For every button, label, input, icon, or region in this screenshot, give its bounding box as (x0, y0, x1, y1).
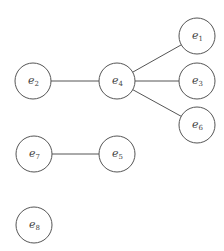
node-e3: e3 (179, 63, 215, 99)
node-e1: e1 (179, 18, 215, 54)
node-e5: e5 (99, 136, 135, 172)
nodes-layer: e1e2e3e4e5e6e7e8 (15, 18, 215, 243)
graph-diagram: e1e2e3e4e5e6e7e8 (0, 0, 224, 251)
node-e4: e4 (99, 63, 135, 99)
node-e8: e8 (16, 207, 52, 243)
node-e2: e2 (15, 63, 51, 99)
edge-e4-e1 (133, 45, 182, 72)
node-e6: e6 (179, 107, 215, 143)
edge-e4-e6 (133, 90, 181, 117)
node-e7: e7 (16, 136, 52, 172)
